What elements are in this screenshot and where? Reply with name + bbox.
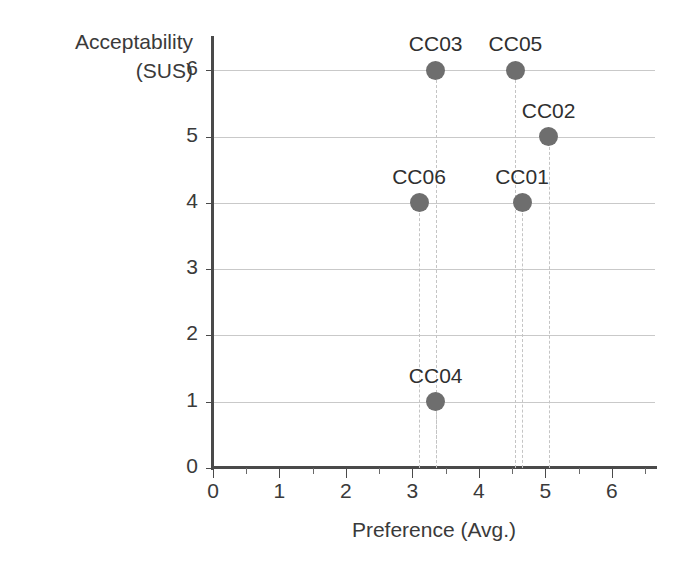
gridline <box>213 269 655 270</box>
x-tick <box>346 468 347 478</box>
y-tick <box>206 70 214 71</box>
data-point-label: CC05 <box>455 32 575 56</box>
y-tick-label: 4 <box>160 189 198 213</box>
data-point[interactable] <box>539 127 558 146</box>
y-tick-label: 6 <box>160 56 198 80</box>
data-point-label: CC02 <box>489 99 609 123</box>
data-point-label: CC06 <box>359 165 479 189</box>
dropline <box>522 203 523 468</box>
x-tick-label: 6 <box>592 479 632 503</box>
y-tick-label: 5 <box>160 123 198 147</box>
y-tick <box>206 203 214 204</box>
scatter-chart: Acceptability (SUS) Preference (Avg.) 01… <box>0 0 692 573</box>
y-tick-label: 1 <box>160 388 198 412</box>
y-tick-label: 2 <box>160 321 198 345</box>
data-point[interactable] <box>426 61 445 80</box>
y-tick-label: 3 <box>160 255 198 279</box>
x-tick <box>479 468 480 478</box>
dropline <box>419 203 420 468</box>
x-tick-label: 3 <box>392 479 432 503</box>
data-point[interactable] <box>513 193 532 212</box>
x-minor-tick <box>512 468 513 474</box>
y-tick <box>206 335 214 336</box>
y-tick <box>206 137 214 138</box>
data-point[interactable] <box>506 61 525 80</box>
x-tick <box>213 468 214 478</box>
gridline <box>213 137 655 138</box>
gridline <box>213 203 655 204</box>
x-tick-label: 5 <box>525 479 565 503</box>
x-tick <box>412 468 413 478</box>
x-minor-tick <box>645 468 646 474</box>
gridline <box>213 335 655 336</box>
x-minor-tick <box>313 468 314 474</box>
y-tick-label: 0 <box>160 454 198 478</box>
x-tick-label: 1 <box>259 479 299 503</box>
dropline <box>515 70 516 468</box>
x-tick <box>279 468 280 478</box>
x-minor-tick <box>446 468 447 474</box>
x-minor-tick <box>246 468 247 474</box>
x-tick-label: 2 <box>326 479 366 503</box>
x-minor-tick <box>579 468 580 474</box>
y-tick <box>206 402 214 403</box>
data-point-label: CC04 <box>376 364 496 388</box>
x-minor-tick <box>379 468 380 474</box>
dropline <box>436 402 437 468</box>
x-tick-label: 0 <box>193 479 233 503</box>
x-tick-label: 4 <box>459 479 499 503</box>
x-axis-title: Preference (Avg.) <box>213 518 655 542</box>
x-tick <box>612 468 613 478</box>
x-tick <box>545 468 546 478</box>
y-tick <box>206 269 214 270</box>
data-point[interactable] <box>410 193 429 212</box>
data-point-label: CC01 <box>462 165 582 189</box>
